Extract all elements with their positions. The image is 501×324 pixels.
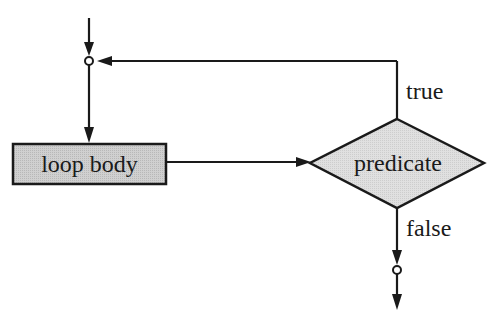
- loop-body-node: loop body: [13, 144, 166, 184]
- junction-to-body-arrow: [84, 65, 94, 143]
- merge-junction-top: [85, 57, 93, 65]
- false-branch-edge: [392, 208, 402, 265]
- true-label: true: [406, 78, 443, 104]
- false-label: false: [406, 215, 451, 241]
- predicate-node: predicate: [310, 119, 484, 208]
- exit-junction: [393, 266, 401, 274]
- body-to-predicate-arrow: [166, 157, 311, 167]
- entry-arrow: [84, 18, 94, 56]
- predicate-label: predicate: [354, 150, 442, 176]
- loop-body-label: loop body: [41, 151, 138, 177]
- true-branch-edge: [97, 56, 397, 119]
- exit-arrow: [392, 274, 402, 310]
- flowchart-canvas: loop body predicate true false: [0, 0, 501, 324]
